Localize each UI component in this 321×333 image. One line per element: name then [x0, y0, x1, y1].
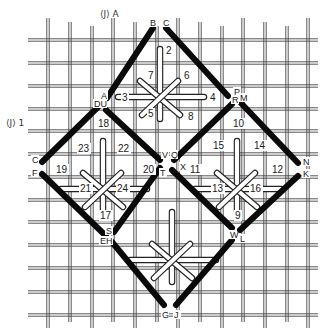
- vertex-label: G: [162, 310, 169, 320]
- vertex-label: N: [303, 157, 310, 167]
- canvas-thread-vertical: [69, 22, 71, 322]
- vertex-label: M: [240, 93, 248, 103]
- vertex-label: B: [150, 18, 156, 28]
- stitch-number: 10: [233, 118, 245, 129]
- stitch-diagram: BCADUPRMCFVQXTNKSEHWLGJ 2763458182322192…: [0, 0, 321, 333]
- stitch-number: 16: [250, 183, 262, 194]
- outline-stitch: [114, 168, 160, 232]
- vertex-label: Q: [171, 150, 178, 160]
- vertex-label: C: [32, 155, 39, 165]
- stitch-number: 5: [148, 108, 154, 119]
- vertex-label: T: [160, 168, 166, 178]
- stitch-number: 14: [254, 140, 266, 151]
- marker-a: ⟨J⟩ A: [100, 9, 120, 19]
- vertex-label: L: [240, 234, 245, 244]
- vertex-label: EH: [100, 236, 113, 246]
- vertex-label: F: [32, 168, 38, 178]
- vertex-label: C: [163, 18, 170, 28]
- canvas-thread-vertical: [134, 22, 136, 328]
- vertex-label: K: [303, 169, 309, 179]
- canvas-thread-vertical: [264, 22, 266, 328]
- stitch-number: 12: [272, 164, 284, 175]
- stitch-number: 13: [212, 183, 224, 194]
- stitch-number: 20: [143, 164, 155, 175]
- stitch-number: 9: [235, 210, 241, 221]
- stitch-number: 21: [80, 183, 92, 194]
- stitch-number: 22: [118, 143, 130, 154]
- vertex-label: V: [162, 150, 168, 160]
- canvas-thread-vertical: [112, 18, 114, 322]
- stitch-sequence-numbers: 27634581823221920212417101514111213169: [55, 45, 285, 221]
- stitch-number: 6: [184, 70, 190, 81]
- stitch-number: 8: [188, 111, 194, 122]
- canvas-thread-vertical: [242, 18, 244, 322]
- vertex-label: DU: [94, 99, 107, 109]
- vertex-label: J: [174, 310, 179, 320]
- stitch-number: 17: [100, 210, 112, 221]
- marker-1: ⟨J⟩ 1: [6, 118, 24, 128]
- cross-stitches: [61, 49, 281, 282]
- stitch-number: 18: [98, 118, 110, 129]
- stitch-number: 15: [213, 140, 225, 151]
- stitch-number: 19: [56, 164, 68, 175]
- vertex-label: R: [232, 95, 239, 105]
- stitch-number: 7: [148, 70, 154, 81]
- stitch-number: 3: [122, 92, 128, 103]
- canvas-thread-vertical: [286, 26, 288, 322]
- stitch-number: 11: [190, 164, 201, 175]
- vertex-label: S: [106, 226, 112, 236]
- stitch-number: 23: [78, 143, 90, 154]
- stitch-number: 24: [117, 183, 129, 194]
- stitch-number: 4: [210, 92, 216, 103]
- vertex-label: X: [180, 162, 186, 172]
- stitch-number: 2: [166, 45, 172, 56]
- vertex-label: W: [230, 230, 239, 240]
